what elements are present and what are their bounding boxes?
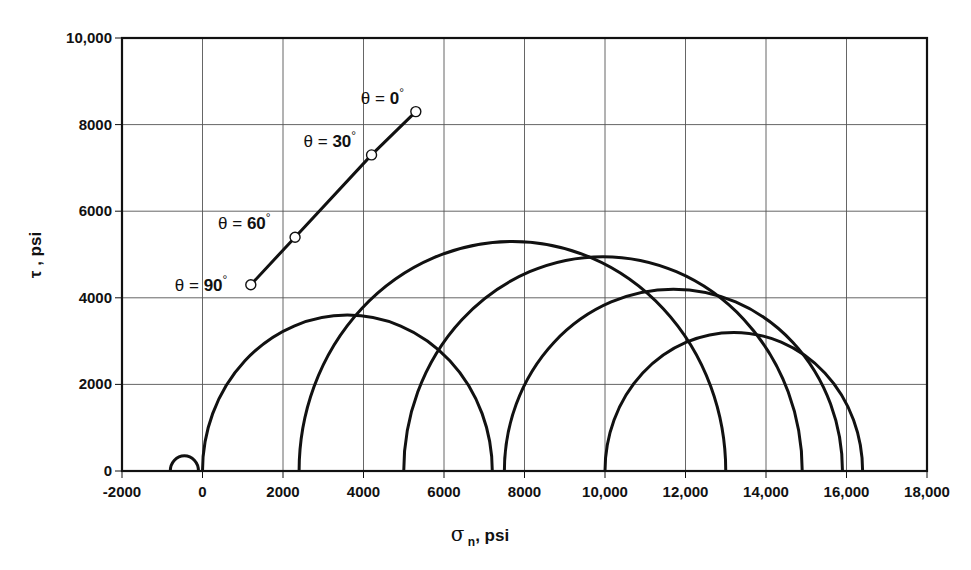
x-tick-label: 18,000	[904, 483, 950, 500]
mohr-circle-5	[504, 289, 842, 471]
mohr-circle-4	[404, 257, 802, 471]
grid-lines	[122, 38, 927, 471]
y-tick-label: 6000	[79, 202, 112, 219]
mohr-circle-1	[170, 456, 198, 471]
theta-point-marker	[246, 280, 256, 290]
y-tick-label: 10,000	[66, 29, 112, 46]
x-tick-label: 12,000	[663, 483, 709, 500]
theta-point-marker	[367, 150, 377, 160]
mohr-circles	[170, 242, 862, 471]
mohr-circle-2	[203, 315, 493, 471]
x-tick-label: 14,000	[743, 483, 789, 500]
mohr-circle-6	[605, 332, 863, 471]
theta-label: θ = 90°	[175, 273, 228, 295]
y-tick-label: 0	[104, 462, 112, 479]
y-tick-label: 4000	[79, 289, 112, 306]
theta-point-marker	[411, 107, 421, 117]
mohr-circle-chart: -20000200040006000800010,00012,00014,000…	[0, 0, 971, 570]
theta-label: θ = 30°	[304, 129, 357, 151]
x-tick-label: 2000	[266, 483, 299, 500]
x-tick-label: 8000	[508, 483, 541, 500]
x-tick-label: 10,000	[582, 483, 628, 500]
x-axis-ticks: -20000200040006000800010,00012,00014,000…	[103, 471, 950, 500]
y-axis-ticks: 0200040006000800010,000	[66, 29, 122, 479]
x-tick-label: 16,000	[824, 483, 870, 500]
x-axis-label: σ n, psi	[451, 522, 509, 549]
y-tick-label: 8000	[79, 116, 112, 133]
theta-labels: θ = 90°θ = 60°θ = 30°θ = 0°	[175, 86, 404, 295]
theta-label: θ = 60°	[218, 211, 271, 233]
x-tick-label: -2000	[103, 483, 141, 500]
theta-label: θ = 0°	[361, 86, 404, 108]
x-tick-label: 0	[198, 483, 206, 500]
y-axis-label: τ , psi	[26, 232, 45, 278]
x-tick-label: 4000	[347, 483, 380, 500]
theta-point-marker	[290, 232, 300, 242]
y-tick-label: 2000	[79, 375, 112, 392]
x-tick-label: 6000	[427, 483, 460, 500]
